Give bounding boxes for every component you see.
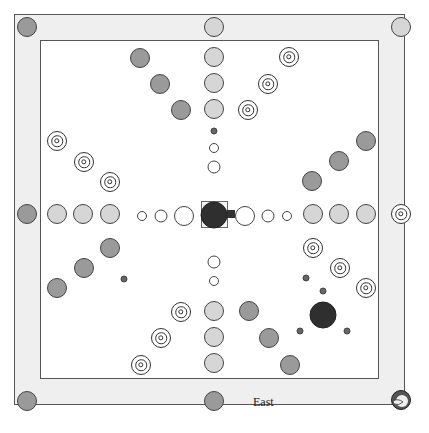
board-target[interactable] [330,258,350,278]
board-cell[interactable] [73,204,93,224]
board-cell[interactable] [150,74,170,94]
board-hole[interactable] [282,211,292,221]
board-cell[interactable] [171,100,191,120]
board-cell[interactable] [204,73,224,93]
board-cell[interactable] [329,204,349,224]
frame-piece-top-right[interactable] [391,17,411,37]
center-black-piece[interactable] [201,202,228,229]
board-cell[interactable] [100,238,120,258]
board-cell[interactable] [47,278,67,298]
active-black-piece[interactable] [310,302,337,329]
board-target[interactable] [171,302,191,322]
board-hole[interactable] [174,206,194,226]
board-target[interactable] [238,100,258,120]
board-cell[interactable] [204,47,224,67]
board-cell[interactable] [280,355,300,375]
move-hint-dot[interactable] [344,328,351,335]
frame-piece-left-center[interactable] [17,204,37,224]
marker-dot [211,128,218,135]
board-target[interactable] [279,47,299,67]
board-target[interactable] [47,131,67,151]
move-hint-dot[interactable] [297,328,304,335]
board-hole[interactable] [137,211,147,221]
swirl-icon[interactable] [390,389,412,411]
board-hole[interactable] [209,143,219,153]
board-hole[interactable] [208,256,221,269]
move-hint-dot[interactable] [320,288,327,295]
board-target[interactable] [131,355,151,375]
board-target[interactable] [74,152,94,172]
board-hole[interactable] [262,210,275,223]
board-hole[interactable] [208,161,221,174]
board-cell[interactable] [204,327,224,347]
board-target[interactable] [258,74,278,94]
game-board: East [0,0,429,433]
board-target[interactable] [151,328,171,348]
center-connector [227,210,235,218]
board-cell[interactable] [204,99,224,119]
board-cell[interactable] [239,301,259,321]
board-cell[interactable] [356,204,376,224]
board-cell[interactable] [302,171,322,191]
board-cell[interactable] [47,204,67,224]
board-target[interactable] [303,238,323,258]
frame-target-right-center[interactable] [391,204,411,224]
board-cell[interactable] [204,353,224,373]
board-target[interactable] [356,278,376,298]
marker-dot [121,276,128,283]
board-cell[interactable] [329,151,349,171]
board-cell[interactable] [100,204,120,224]
board-cell[interactable] [74,258,94,278]
board-hole[interactable] [155,210,168,223]
board-cell[interactable] [204,301,224,321]
frame-piece-top-center[interactable] [204,17,224,37]
board-cell[interactable] [130,48,150,68]
board-cell[interactable] [259,328,279,348]
board-hole[interactable] [209,276,219,286]
direction-label: East [253,395,274,410]
board-hole[interactable] [235,206,255,226]
move-hint-dot[interactable] [303,275,310,282]
frame-piece-bottom-center[interactable] [204,391,224,411]
frame-piece-bottom-left[interactable] [17,391,37,411]
board-cell[interactable] [356,131,376,151]
board-cell[interactable] [303,204,323,224]
board-target[interactable] [100,172,120,192]
frame-piece-top-left[interactable] [17,17,37,37]
